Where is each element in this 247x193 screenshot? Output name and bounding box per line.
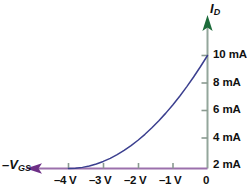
x-axis-title-symbol: –V [2,157,18,172]
x-tick-label-zero: 0 [203,175,209,187]
x-tick-label-minus4v: –4 V [54,175,76,187]
y-tick-label-4ma: 4 mA [213,132,241,144]
x-tick-label-minus2v: –2 V [124,175,146,187]
y-axis-title-subscript: D [214,7,221,17]
x-tick-label-minus3v: –3 V [89,175,111,187]
x-axis-title: –VGS [2,158,31,171]
jfet-transfer-characteristic-figure: 10 mA 8 mA 6 mA 4 mA 2 mA –4 V –3 V –2 V… [0,0,247,193]
transfer-curve [69,56,208,169]
y-tick-label-2ma: 2 mA [213,159,241,171]
x-tick-label-minus1v: –1 V [159,175,181,187]
y-tick-label-6ma: 6 mA [213,104,241,116]
y-tick-label-8ma: 8 mA [213,77,241,89]
chart-plot-area [0,0,247,193]
y-axis-title: ID [210,2,220,15]
y-tick-label-10ma: 10 mA [213,49,247,61]
x-axis-title-subscript: GS [18,163,31,173]
